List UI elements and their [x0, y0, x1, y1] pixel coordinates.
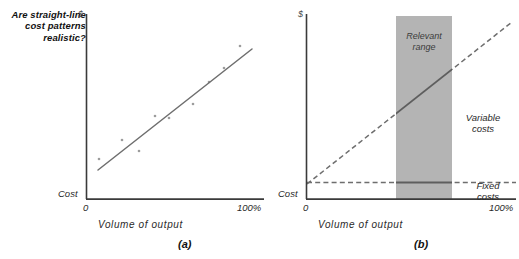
panel-a-x-axis-title: Volume of output — [98, 219, 183, 230]
panel-a-scatter-points — [98, 45, 242, 161]
panel-b-x-axis-title: Volume of output — [318, 219, 403, 230]
scatter-point — [223, 67, 226, 70]
scatter-point — [192, 103, 195, 106]
panel-b-x-axis-start-label: 0 — [303, 202, 308, 213]
panel-b-relevant-range-chart: $ Cost 0 100% Volume of output Relevant … — [280, 0, 519, 259]
panel-a-y-axis-top-label: $ — [78, 9, 83, 19]
scatter-point — [154, 115, 157, 118]
relevant-range-label-line1: Relevant — [394, 31, 454, 42]
panel-a-y-axis-bottom-label: Cost — [58, 188, 78, 199]
panel-b-x-axis-end-label: 100% — [489, 202, 513, 213]
fixed-costs-label-line1: Fixed — [457, 180, 519, 192]
cost-behavior-figure: Are straight-line cost patterns realisti… — [0, 0, 519, 259]
relevant-range-label-line2: range — [394, 42, 454, 53]
scatter-point — [98, 158, 101, 161]
scatter-point — [239, 45, 242, 48]
scatter-point — [168, 117, 171, 120]
panel-a-x-axis-end-label: 100% — [237, 202, 261, 213]
panel-b-y-axis-bottom-label: Cost — [278, 188, 298, 199]
panel-a-x-axis-start-label: 0 — [83, 202, 88, 213]
scatter-point — [121, 139, 124, 142]
fixed-costs-label-line2: costs — [457, 191, 519, 203]
variable-costs-label-line1: Variable — [452, 112, 514, 124]
panel-b-caption: (b) — [414, 238, 428, 250]
panel-a-scatter-chart: Are straight-line cost patterns realisti… — [0, 0, 280, 259]
panel-b-y-axis-top-label: $ — [298, 9, 303, 19]
variable-costs-label-line2: costs — [452, 123, 514, 135]
panel-a-caption: (a) — [178, 238, 191, 250]
scatter-point — [138, 150, 141, 153]
panel-a-trend-line — [98, 49, 252, 170]
